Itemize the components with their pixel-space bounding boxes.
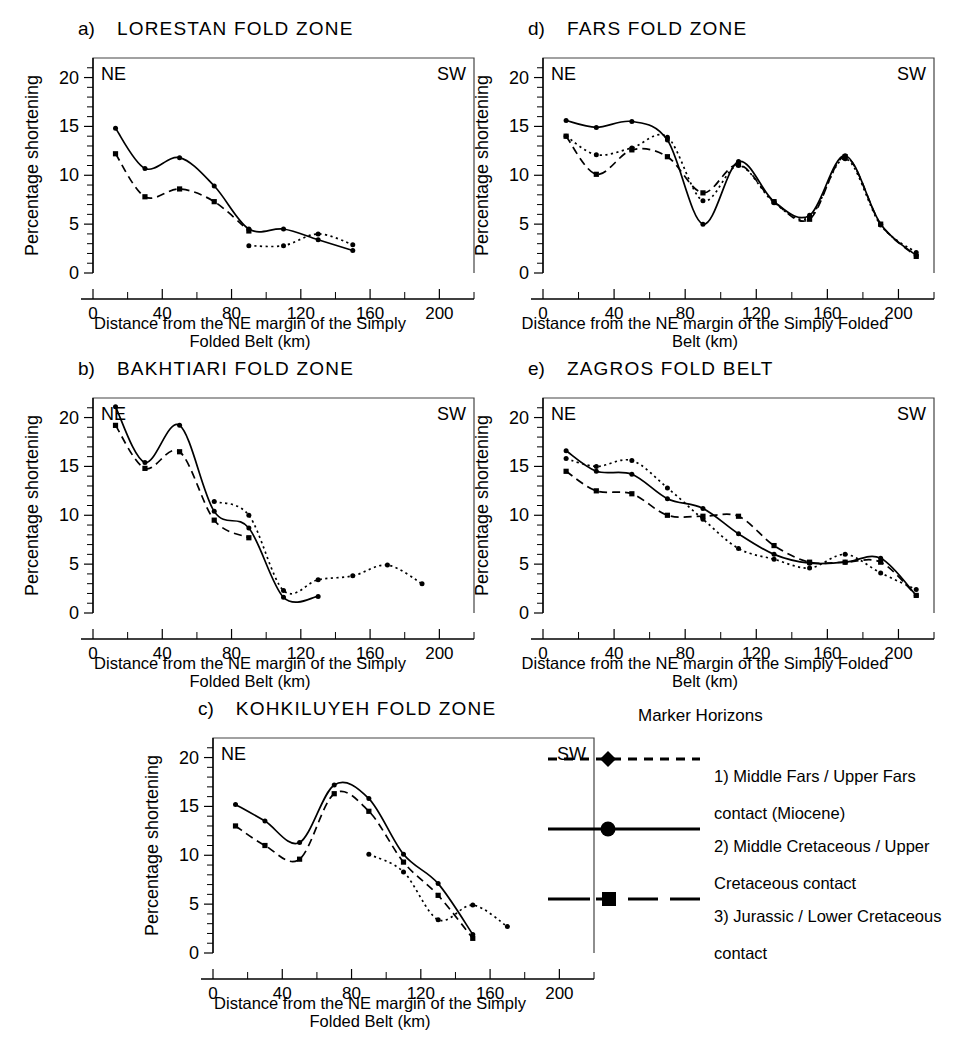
y-tick-label: 0 bbox=[189, 943, 199, 963]
data-point bbox=[564, 456, 569, 461]
corner-label-sw: SW bbox=[897, 404, 926, 424]
xlabel-line2: Belt (km) bbox=[470, 332, 940, 350]
data-point bbox=[594, 469, 599, 474]
legend-item-1: 1) Middle Fars / Upper Fars contact (Mio… bbox=[548, 748, 916, 823]
data-point bbox=[736, 514, 741, 519]
panel-e-letter: e) bbox=[528, 358, 545, 380]
data-point bbox=[420, 581, 425, 586]
data-point bbox=[246, 535, 251, 540]
data-point bbox=[594, 488, 599, 493]
panel-bakhtiari: b) BAKHTIARI FOLD ZONE 05101520040801201… bbox=[20, 354, 480, 699]
data-point bbox=[771, 543, 776, 548]
data-point bbox=[878, 570, 883, 575]
legend-label-2: 2) Middle Cretaceous / Upper Cretaceous … bbox=[714, 818, 930, 893]
y-tick-label: 0 bbox=[519, 263, 529, 283]
data-point bbox=[665, 154, 670, 159]
data-point bbox=[401, 852, 406, 857]
data-point bbox=[665, 496, 670, 501]
legend-sample-solid-circle-icon bbox=[548, 818, 700, 840]
panel-a-letter: a) bbox=[78, 18, 95, 40]
data-point bbox=[807, 217, 812, 222]
corner-label-ne: NE bbox=[551, 404, 576, 424]
legend-label-3-line2: contact bbox=[714, 944, 767, 962]
data-point bbox=[316, 577, 321, 582]
data-point bbox=[436, 881, 441, 886]
data-point bbox=[316, 231, 321, 236]
data-point bbox=[772, 552, 777, 557]
data-point bbox=[246, 513, 251, 518]
panel-b-title: BAKHTIARI FOLD ZONE bbox=[117, 358, 354, 380]
xlabel-line1: Distance from the NE margin of the Simpl… bbox=[20, 654, 480, 672]
y-tick-label: 10 bbox=[509, 505, 529, 525]
series-line-dashed bbox=[236, 791, 473, 938]
data-point bbox=[505, 924, 510, 929]
y-tick-label: 0 bbox=[69, 263, 79, 283]
xlabel-line1: Distance from the NE margin of the Simpl… bbox=[470, 654, 940, 672]
data-point bbox=[564, 448, 569, 453]
data-point bbox=[878, 222, 883, 227]
series-line-solid bbox=[116, 407, 319, 602]
y-tick-label: 15 bbox=[59, 456, 79, 476]
data-point bbox=[807, 560, 812, 565]
panel-a-title: LORESTAN FOLD ZONE bbox=[117, 18, 354, 40]
panel-fars: d) FARS FOLD ZONE 0510152004080120160200… bbox=[470, 14, 940, 359]
legend-label-3-line1: 3) Jurassic / Lower Cretaceous bbox=[714, 907, 941, 925]
data-point bbox=[700, 514, 705, 519]
xlabel-line1: Distance from the NE margin of the Simpl… bbox=[140, 994, 600, 1012]
y-tick-label: 0 bbox=[519, 603, 529, 623]
data-point bbox=[332, 791, 337, 796]
y-tick-label: 10 bbox=[59, 165, 79, 185]
panel-c-plot: 0510152004080120160200Percentage shorten… bbox=[140, 724, 600, 984]
data-point bbox=[736, 162, 741, 167]
y-tick-label: 10 bbox=[59, 505, 79, 525]
panel-d-xlabel: Distance from the NE margin of the Simpl… bbox=[470, 314, 940, 351]
data-point bbox=[594, 152, 599, 157]
xlabel-line2: Folded Belt (km) bbox=[20, 332, 480, 350]
y-tick-label: 5 bbox=[69, 214, 79, 234]
series-line-dashed bbox=[116, 154, 249, 231]
legend-label-1: 1) Middle Fars / Upper Fars contact (Mio… bbox=[714, 748, 916, 823]
data-point bbox=[594, 172, 599, 177]
panel-e-header: e) ZAGROS FOLD BELT bbox=[528, 354, 938, 384]
data-point bbox=[436, 893, 441, 898]
data-point bbox=[177, 186, 182, 191]
chart-bakhtiari: 0510152004080120160200Percentage shorten… bbox=[20, 384, 480, 644]
data-point bbox=[366, 852, 371, 857]
y-tick-label: 15 bbox=[509, 456, 529, 476]
chart-fars: 0510152004080120160200Percentage shorten… bbox=[470, 44, 940, 304]
series-line-solid bbox=[236, 782, 473, 934]
data-point bbox=[142, 460, 147, 465]
series-line-solid bbox=[566, 451, 916, 596]
data-point bbox=[350, 248, 355, 253]
y-axis-title: Percentage shortening bbox=[22, 75, 42, 256]
series-line-dotted bbox=[566, 135, 916, 253]
data-point bbox=[594, 464, 599, 469]
data-point bbox=[385, 563, 390, 568]
y-tick-label: 5 bbox=[519, 554, 529, 574]
panel-e-title: ZAGROS FOLD BELT bbox=[567, 358, 774, 380]
panel-d-title: FARS FOLD ZONE bbox=[567, 18, 747, 40]
data-point bbox=[843, 154, 848, 159]
corner-label-ne: NE bbox=[101, 64, 126, 84]
y-tick-label: 5 bbox=[519, 214, 529, 234]
panel-e-xlabel: Distance from the NE margin of the Simpl… bbox=[470, 654, 940, 691]
data-point bbox=[594, 125, 599, 130]
data-point bbox=[665, 485, 670, 490]
series-line-dashed bbox=[566, 136, 916, 256]
data-point bbox=[113, 151, 118, 156]
corner-label-ne: NE bbox=[221, 744, 246, 764]
legend-label-1-line1: 1) Middle Fars / Upper Fars bbox=[714, 767, 916, 785]
data-point bbox=[564, 118, 569, 123]
data-point bbox=[233, 802, 238, 807]
data-point bbox=[177, 449, 182, 454]
data-point bbox=[843, 560, 848, 565]
panel-d-plot: 0510152004080120160200Percentage shorten… bbox=[470, 44, 940, 304]
data-point bbox=[564, 134, 569, 139]
panel-a-xlabel: Distance from the NE margin of the Simpl… bbox=[20, 314, 480, 351]
data-point bbox=[878, 560, 883, 565]
series-line-dotted bbox=[566, 459, 916, 590]
data-point bbox=[233, 823, 238, 828]
data-point bbox=[736, 531, 741, 536]
data-point bbox=[113, 423, 118, 428]
data-point bbox=[629, 472, 634, 477]
